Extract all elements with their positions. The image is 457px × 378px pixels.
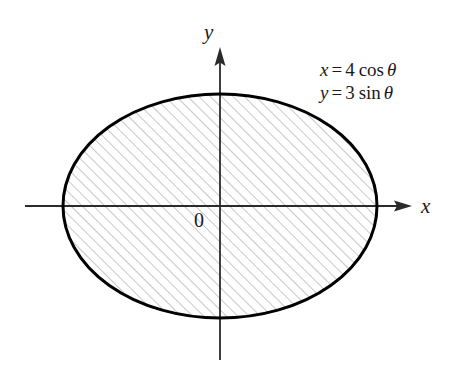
equation-y-parameter: θ (381, 82, 393, 103)
x-axis-label: x (421, 196, 430, 217)
equation-x-equals: = (328, 59, 345, 80)
equation-x-parameter: θ (384, 59, 396, 80)
equation-y-equals: = (328, 82, 345, 103)
figure-canvas: y x 0 x=4cosθ y=3sinθ (0, 0, 457, 378)
equation-y-coefficient: 3 (345, 82, 355, 103)
equation-y-function: sin (355, 82, 381, 103)
parametric-equations: x=4cosθ y=3sinθ (320, 58, 396, 104)
y-axis-label: y (204, 22, 213, 43)
equation-x-coefficient: 4 (345, 59, 355, 80)
ellipse-figure-svg (0, 0, 457, 378)
origin-label: 0 (194, 210, 204, 230)
equation-x-function: cos (355, 59, 384, 80)
equation-line-x: x=4cosθ (320, 58, 396, 81)
equation-line-y: y=3sinθ (320, 81, 396, 104)
